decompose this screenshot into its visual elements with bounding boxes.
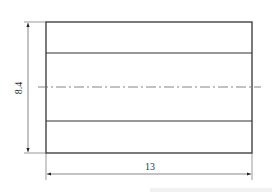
outer-rectangle xyxy=(46,22,252,153)
height-label: 8.4 xyxy=(13,82,24,95)
drawing-canvas: 8.4 13 xyxy=(0,0,272,192)
bottom-strip xyxy=(150,188,272,192)
width-label: 13 xyxy=(145,161,155,172)
